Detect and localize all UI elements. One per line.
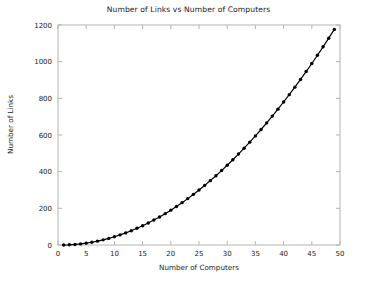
data-point-marker [73,243,76,246]
data-point-marker [186,197,189,200]
y-tick-label: 1000 [34,58,52,66]
y-tick-marks [58,25,340,245]
data-point-marker [242,147,245,150]
data-point-marker [107,237,110,240]
data-point-marker [62,243,65,246]
x-tick-label: 45 [307,250,316,258]
data-point-marker [85,241,88,244]
data-point-marker [147,221,150,224]
x-tick-label: 40 [279,250,288,258]
x-tick-label: 20 [166,250,175,258]
y-tick-label: 800 [39,95,52,103]
data-point-marker [259,128,262,131]
data-point-marker [152,218,155,221]
data-point-marker [163,212,166,215]
data-series-markers [62,28,336,247]
x-tick-labels: 05101520253035404550 [56,250,345,258]
x-tick-label: 50 [336,250,345,258]
data-point-marker [192,193,195,196]
data-point-marker [130,229,133,232]
data-point-marker [304,70,307,73]
data-point-marker [321,45,324,48]
axis-frame [58,25,340,245]
data-point-marker [276,107,279,110]
data-point-marker [90,241,93,244]
data-point-marker [293,85,296,88]
data-point-marker [237,152,240,155]
data-point-marker [271,114,274,117]
data-point-marker [310,62,313,65]
plot-area: 05101520253035404550 0200400600800100012… [0,0,377,282]
data-point-marker [214,174,217,177]
data-point-marker [248,140,251,143]
x-tick-label: 5 [84,250,88,258]
x-tick-marks [58,25,340,245]
y-tick-labels: 020040060080010001200 [34,22,52,250]
x-tick-label: 10 [110,250,119,258]
data-point-marker [79,242,82,245]
data-point-marker [158,215,161,218]
data-point-marker [203,184,206,187]
y-tick-label: 600 [39,132,52,140]
chart-figure: Number of Links vs Number of Computers N… [0,0,377,282]
data-point-marker [282,100,285,103]
data-point-marker [254,134,257,137]
data-point-marker [316,54,319,57]
data-point-marker [141,224,144,227]
x-tick-label: 0 [56,250,60,258]
x-tick-label: 35 [251,250,260,258]
data-point-marker [175,205,178,208]
y-tick-label: 0 [48,242,52,250]
data-point-marker [265,121,268,124]
data-point-marker [68,243,71,246]
y-tick-label: 200 [39,205,52,213]
data-point-marker [288,93,291,96]
y-tick-label: 400 [39,168,52,176]
data-point-marker [135,227,138,230]
x-tick-label: 15 [138,250,147,258]
data-series-line [64,29,335,245]
data-point-marker [101,238,104,241]
data-point-marker [118,233,121,236]
data-point-marker [113,235,116,238]
y-tick-label: 1200 [34,22,52,30]
data-point-marker [327,37,330,40]
x-tick-label: 30 [223,250,232,258]
data-point-marker [209,179,212,182]
data-point-marker [220,169,223,172]
x-tick-label: 25 [195,250,204,258]
data-point-marker [96,239,99,242]
data-point-marker [180,201,183,204]
data-point-marker [226,164,229,167]
data-point-marker [231,158,234,161]
data-point-marker [197,188,200,191]
data-point-marker [333,28,336,31]
data-point-marker [124,231,127,234]
data-point-marker [169,208,172,211]
data-point-marker [299,78,302,81]
